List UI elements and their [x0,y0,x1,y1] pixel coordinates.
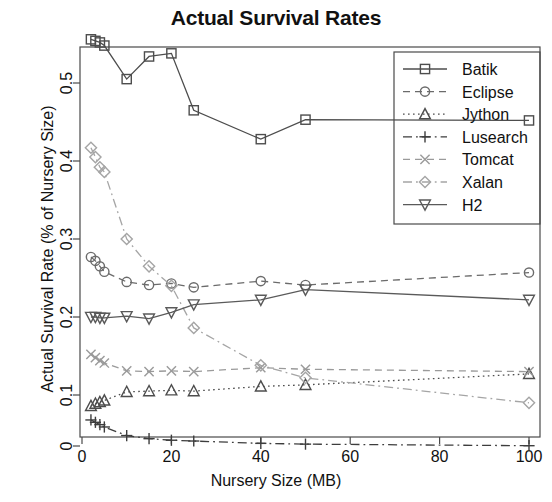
data-point-plus [143,433,154,444]
series-tomcat [86,350,533,376]
data-point-cross [100,358,109,367]
x-tick-label: 60 [341,448,359,465]
legend-label: Batik [462,61,499,78]
y-tick-label: 0.3 [58,228,75,250]
y-tick-label: 0.2 [58,306,75,328]
legend-label: Tomcat [462,151,514,168]
x-tick-label: 80 [431,448,449,465]
legend-label: Eclipse [462,84,514,101]
data-point-triangle-down [524,295,535,305]
series-line [91,354,529,371]
x-tick-label: 40 [252,448,270,465]
data-point-circle [122,277,131,286]
y-tick-label: 0.4 [58,150,75,172]
legend-item-xalan[interactable]: Xalan [403,174,503,191]
chart-figure: Actual Survival Rates Nursery Size (MB) … [0,0,552,502]
data-point-triangle-up [166,385,177,395]
data-point-plus [121,430,132,441]
series-lusearch [85,414,534,451]
legend-label: Jython [462,106,509,123]
chart-title: Actual Survival Rates [0,6,552,30]
series-h2 [86,285,535,324]
series-line [91,290,529,319]
legend-item-lusearch[interactable]: Lusearch [403,129,528,146]
y-tick-label: 0.1 [58,384,75,406]
data-point-triangle-up [121,386,132,396]
legend-label: Xalan [462,174,503,191]
x-tick-label: 20 [163,448,181,465]
legend-item-tomcat[interactable]: Tomcat [403,151,514,168]
y-tick-label: 0.5 [58,72,75,94]
legend-label: Lusearch [462,129,528,146]
legend-label: H2 [462,197,483,214]
data-point-cross [86,350,95,359]
data-point-plus [166,435,177,446]
data-point-cross [91,353,100,362]
y-tick-label: 0 [58,441,75,450]
series-line [91,420,529,446]
legend-item-batik[interactable]: Batik [403,61,499,78]
data-point-plus [419,131,430,142]
data-point-plus [300,439,311,450]
x-tick-label: 0 [78,448,87,465]
y-axis-label: Actual Survival Rate (% of Nursery Size) [39,49,57,449]
legend-item-eclipse[interactable]: Eclipse [403,84,514,101]
data-point-triangle-up [524,368,535,378]
plot-area: 02040608010000.10.20.30.40.5 BatikEclips… [0,0,552,502]
legend-box: BatikEclipseJythonLusearchTomcatXalanH2 [394,52,540,224]
legend-item-h2[interactable]: H2 [403,197,483,214]
x-axis-label: Nursery Size (MB) [0,472,552,490]
